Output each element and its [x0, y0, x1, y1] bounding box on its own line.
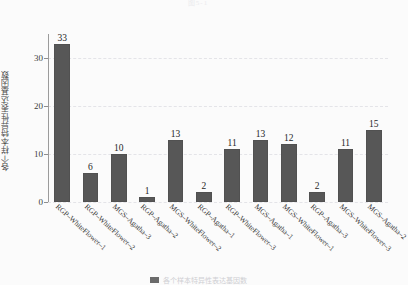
bar-rect	[168, 140, 184, 202]
bar[interactable]: 15	[366, 130, 382, 202]
y-axis-title: 各个样本特异性表达基因数	[2, 46, 16, 196]
bar-series: 33610113211131221115	[48, 20, 388, 202]
bar-rect	[253, 140, 269, 202]
bar[interactable]: 2	[196, 192, 212, 202]
plot-area: 0102030 33610113211131221115	[48, 20, 388, 202]
bar-value-label: 2	[201, 181, 206, 191]
bar-rect	[338, 149, 354, 202]
bar-value-label: 10	[114, 143, 124, 153]
bar-value-label: 11	[341, 138, 350, 148]
x-tick-label: MGS–WhiteFlower–1	[281, 202, 336, 253]
bar[interactable]: 13	[168, 140, 184, 202]
x-tick-label: RGP–WhiteFlower–3	[224, 202, 278, 252]
bar-value-label: 13	[256, 129, 266, 139]
bar-rect	[111, 154, 127, 202]
x-axis-tick-labels: RGP–WhiteFlower–1RGP–WhiteFlower–2MGS–Ag…	[48, 202, 388, 272]
bar-rect	[309, 192, 325, 202]
bar[interactable]: 2	[309, 192, 325, 202]
bar-value-label: 1	[145, 186, 150, 196]
x-tick-label: RGP–WhiteFlower–1	[54, 202, 108, 252]
bar[interactable]: 11	[338, 149, 354, 202]
y-tick-label: 0	[39, 197, 44, 207]
bar-value-label: 33	[57, 33, 67, 43]
bar-rect	[54, 44, 70, 202]
legend-swatch-icon	[150, 277, 159, 283]
bar[interactable]: 12	[281, 144, 297, 202]
bar[interactable]: 11	[224, 149, 240, 202]
x-tick-label: RGP–WhiteFlower–2	[82, 202, 136, 252]
bar[interactable]: 33	[54, 44, 70, 202]
bar-value-label: 11	[228, 138, 237, 148]
bar-rect	[366, 130, 382, 202]
bar-value-label: 12	[284, 133, 294, 143]
y-tick-label: 30	[34, 53, 43, 63]
figure-title: 图5-1	[0, 0, 396, 7]
chart-legend: 各个样本特异性表达基因数	[0, 275, 396, 285]
bar-value-label: 6	[88, 162, 93, 172]
x-tick-label: MGS–WhiteFlower–2	[167, 202, 222, 253]
bar-rect	[224, 149, 240, 202]
y-tick-label: 10	[34, 149, 43, 159]
bar[interactable]: 13	[253, 140, 269, 202]
bar-value-label: 13	[171, 129, 181, 139]
bar-rect	[281, 144, 297, 202]
x-tick-label: MGS–WhiteFlower–3	[337, 202, 392, 253]
bar[interactable]: 10	[111, 154, 127, 202]
bar-value-label: 2	[315, 181, 320, 191]
bar-value-label: 15	[369, 119, 379, 129]
bar[interactable]: 6	[83, 173, 99, 202]
bar-rect	[83, 173, 99, 202]
bar-rect	[196, 192, 212, 202]
legend-label: 各个样本特异性表达基因数	[163, 275, 247, 285]
y-tick-label: 20	[34, 101, 43, 111]
